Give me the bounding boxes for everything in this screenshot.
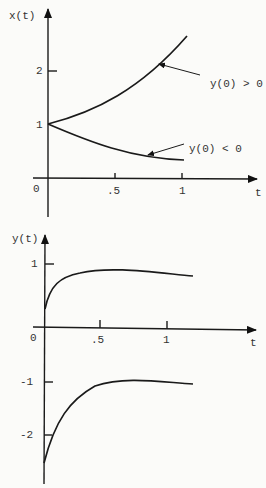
top-x-axis	[33, 178, 257, 179]
annotation-negative: y(0) < 0	[189, 144, 242, 155]
bottom-origin-label: 0	[30, 333, 37, 344]
annotation-arrow-positive	[159, 64, 200, 75]
top-origin-label: 0	[33, 184, 40, 195]
bottom-x-tick-half: .5	[91, 335, 104, 346]
bottom-curve-negative	[44, 380, 193, 463]
top-curve-negative	[48, 124, 184, 160]
bottom-x-axis	[33, 327, 256, 330]
bottom-x-label: t	[250, 338, 257, 349]
bottom-y-label: y(t)	[12, 234, 38, 245]
top-y-tick-1: 1	[36, 120, 43, 131]
bottom-y-axis	[44, 235, 45, 484]
top-curve-positive	[48, 36, 187, 124]
bottom-chart	[33, 235, 256, 484]
bottom-curve-positive	[45, 270, 193, 309]
bottom-y-tick-1: 1	[31, 259, 38, 270]
bottom-x-tick-1: 1	[163, 335, 170, 346]
top-y-tick-2: 2	[36, 66, 43, 77]
annotation-arrow-negative	[148, 144, 184, 155]
top-y-label: x(t)	[9, 11, 35, 22]
top-x-tick-half: .5	[107, 186, 120, 197]
top-x-label: t	[255, 188, 262, 199]
bottom-y-tick-minus2: -2	[20, 430, 33, 441]
top-x-tick-1: 1	[179, 186, 186, 197]
bottom-y-tick-minus1: -1	[20, 377, 33, 388]
annotation-positive: y(0) > 0	[210, 79, 263, 90]
top-chart	[33, 9, 257, 217]
